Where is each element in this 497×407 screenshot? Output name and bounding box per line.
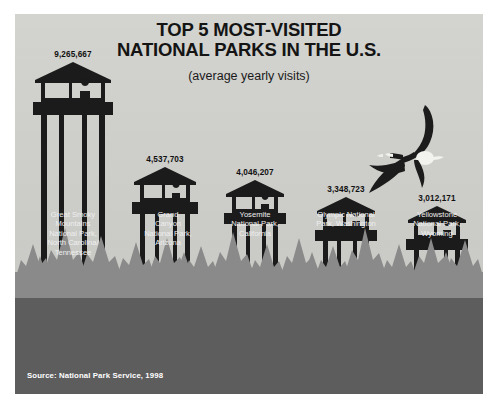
title-block: TOP 5 MOST-VISITED NATIONAL PARKS IN THE… — [15, 20, 483, 83]
infographic-canvas: TOP 5 MOST-VISITED NATIONAL PARKS IN THE… — [15, 14, 483, 394]
infographic-poster: TOP 5 MOST-VISITED NATIONAL PARKS IN THE… — [0, 0, 497, 407]
treeline-silhouette — [15, 210, 483, 298]
page-title-line-2: NATIONAL PARKS IN THE U.S. — [15, 40, 483, 60]
source-note: Source: National Park Service, 1998 — [27, 371, 163, 380]
bar-value-label: 3,348,723 — [327, 185, 364, 194]
page-subtitle: (average yearly visits) — [15, 69, 483, 83]
bar-value-label: 4,046,207 — [236, 168, 273, 177]
eagle-icon — [363, 102, 455, 198]
page-title-line-1: TOP 5 MOST-VISITED — [15, 20, 483, 40]
bar-value-label: 4,537,703 — [146, 155, 183, 164]
